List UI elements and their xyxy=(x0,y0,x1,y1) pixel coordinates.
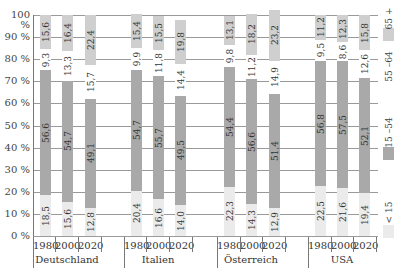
bar-segment: 20,4 xyxy=(131,191,142,236)
value-label: 54,7 xyxy=(63,131,72,151)
x-tick-year: 2020 xyxy=(169,240,192,252)
x-tick-year: 1980 xyxy=(217,240,240,252)
bar-segment: 12,6 xyxy=(359,50,370,78)
bar-segment: 54,7 xyxy=(131,70,142,191)
bar-segment: 12,3 xyxy=(337,15,348,42)
value-label: 13,3 xyxy=(63,56,72,76)
bar-usa-2020: 19,452,112,615,8 xyxy=(359,15,370,236)
bar-österreich-2000: 14,356,611,218,2 xyxy=(246,15,257,236)
value-label: 11,2 xyxy=(247,57,256,77)
bar-segment: 16,6 xyxy=(153,199,164,236)
value-label: 19,4 xyxy=(360,205,369,225)
bar-deutschland-1980: 18,556,69,315,6 xyxy=(40,15,51,236)
value-label: 23,2 xyxy=(270,25,279,45)
value-label: 18,5 xyxy=(41,206,50,226)
bar-österreich-2020: 12,951,414,923,2 xyxy=(269,15,280,236)
y-tick-label: 30 % xyxy=(0,165,30,175)
bar-deutschland-2020: 12,849,115,722,4 xyxy=(85,15,96,236)
bar-segment: 22,5 xyxy=(315,186,326,236)
x-tick-year: 1980 xyxy=(33,240,55,252)
y-tick-label: 100 % xyxy=(0,10,30,30)
value-label: 13,1 xyxy=(225,20,234,40)
bar-segment: 14,9 xyxy=(269,61,280,94)
y-tick-label: 10 % xyxy=(0,209,30,219)
bar-segment: 8,6 xyxy=(337,42,348,61)
bar-segment: 11,2 xyxy=(315,15,326,40)
value-label: 55,7 xyxy=(154,128,163,148)
value-label: 56,8 xyxy=(316,113,325,133)
y-tick-label: 50 % xyxy=(0,121,30,131)
value-label: 14,9 xyxy=(270,67,279,87)
value-label: 12,6 xyxy=(360,54,369,74)
x-group-label: USA xyxy=(302,254,382,266)
bar-segment: 9,3 xyxy=(40,49,51,70)
value-label: 12,3 xyxy=(338,19,347,39)
legend-label: 15 –54 xyxy=(385,116,394,150)
year-separator xyxy=(240,237,241,252)
bar-usa-2000: 21,657,58,612,3 xyxy=(337,15,348,236)
value-label: 11,8 xyxy=(154,53,163,73)
y-tick-label: 40 % xyxy=(0,143,30,153)
y-axis xyxy=(33,15,34,236)
year-separator xyxy=(78,237,79,252)
bar-segment: 16,4 xyxy=(62,15,73,51)
bar-italien-2020: 14,049,514,419,8 xyxy=(175,15,186,236)
legend-label: 55 –64 xyxy=(385,50,394,84)
x-tick-year: 1980 xyxy=(308,240,331,252)
value-label: 49,1 xyxy=(86,143,95,163)
bar-segment: 55,7 xyxy=(153,76,164,199)
bar-segment: 13,1 xyxy=(224,16,235,45)
y-tick-label: 90 % xyxy=(0,32,30,42)
value-label: 12,8 xyxy=(86,212,95,232)
legend-label: < 15 xyxy=(385,196,394,230)
bar-segment: 49,1 xyxy=(85,99,96,208)
value-label: 12,9 xyxy=(270,212,279,232)
x-tick-year: 1980 xyxy=(124,240,146,252)
bar-segment: 49,5 xyxy=(175,96,186,205)
bar-segment: 15,6 xyxy=(62,202,73,236)
x-tick-year: 2020 xyxy=(78,240,101,252)
value-label: 21,6 xyxy=(338,202,347,222)
value-label: 16,4 xyxy=(63,23,72,43)
stacked-bar-chart: 0 %10 %20 %30 %40 %50 %60 %70 %80 %90 %1… xyxy=(0,0,396,268)
x-tick-year: 2020 xyxy=(353,240,376,252)
value-label: 9,9 xyxy=(132,52,141,66)
year-separator xyxy=(376,237,377,252)
value-label: 51,4 xyxy=(270,141,279,161)
x-tick-year: 2000 xyxy=(240,240,262,252)
value-label: 52,1 xyxy=(360,126,369,146)
year-separator xyxy=(146,237,147,252)
bar-segment: 15,4 xyxy=(131,14,142,48)
y-tick-label: 60 % xyxy=(0,98,30,108)
gridline xyxy=(33,236,378,237)
bar-segment: 54,7 xyxy=(62,81,73,202)
year-separator xyxy=(262,237,263,252)
bar-segment: 11,8 xyxy=(153,50,164,76)
value-label: 14,4 xyxy=(176,70,185,90)
bar-italien-2000: 16,655,711,815,5 xyxy=(153,15,164,236)
bar-segment: 23,2 xyxy=(269,10,280,61)
bar-segment: 52,1 xyxy=(359,78,370,193)
bar-segment: 21,6 xyxy=(337,188,348,236)
bar-segment: 15,5 xyxy=(153,16,164,50)
value-label: 57,5 xyxy=(338,115,347,135)
value-label: 56,6 xyxy=(41,123,50,143)
bar-segment: 15,7 xyxy=(85,65,96,100)
bar-segment: 12,8 xyxy=(85,208,96,236)
bar-segment: 18,2 xyxy=(246,14,257,54)
bar-segment: 15,6 xyxy=(40,15,51,49)
bar-segment: 22,4 xyxy=(85,15,96,65)
y-tick-label: 20 % xyxy=(0,187,30,197)
value-label: 15,5 xyxy=(154,23,163,43)
bar-deutschland-2000: 15,654,713,316,4 xyxy=(62,15,73,236)
value-label: 9,3 xyxy=(41,53,50,67)
y-tick-label: 70 % xyxy=(0,76,30,86)
bar-segment: 9,5 xyxy=(315,40,326,61)
bar-segment: 19,8 xyxy=(175,20,186,64)
x-tick-year: 2000 xyxy=(331,240,353,252)
value-label: 49,5 xyxy=(176,140,185,160)
value-label: 18,2 xyxy=(247,24,256,44)
x-tick-year: 2000 xyxy=(146,240,169,252)
value-label: 15,4 xyxy=(132,21,141,41)
year-separator xyxy=(101,237,102,252)
